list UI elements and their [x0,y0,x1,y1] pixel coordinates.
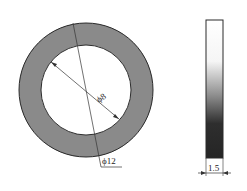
arrow-head-icon [201,171,206,175]
arrow-head-icon [223,171,228,175]
thickness-label: 1.5 [208,163,220,173]
washer-side [206,20,223,158]
side-view: 1.5 [198,20,231,176]
outer-diameter-label: ϕ12 [102,156,116,166]
washer-drawing: ϕ8 ϕ12 1.5 [0,0,247,191]
front-view: ϕ8 ϕ12 [19,23,153,167]
